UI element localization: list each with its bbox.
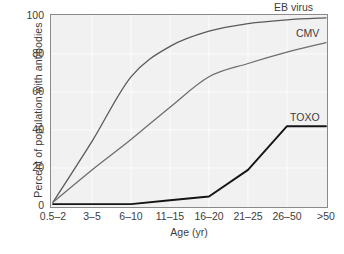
plot-area — [50, 14, 328, 208]
x-axis-tick-label: 6–10 — [119, 210, 142, 222]
series-line-cmv — [53, 43, 326, 203]
y-axis-tick-label: 100 — [18, 9, 44, 21]
x-axis-tick-label: 0.5–2 — [40, 210, 66, 222]
x-axis-tick-label: 16–20 — [194, 210, 223, 222]
y-axis-tick-label: 40 — [18, 123, 44, 135]
plot-canvas — [51, 15, 327, 207]
y-axis-tick-label: 80 — [18, 47, 44, 59]
x-axis-tick-labels: 0.5–23–56–1011–1516–2021–2526–50>50 — [50, 210, 328, 226]
y-axis-tick-label: 20 — [18, 161, 44, 173]
x-axis-tick-label: 3–5 — [83, 210, 101, 222]
chart-figure: Percent of population with antibodies 02… — [0, 0, 344, 254]
x-axis-tick-label: 21–25 — [233, 210, 262, 222]
x-axis-tick-label: 11–15 — [156, 210, 184, 222]
series-label-cmv: CMV — [296, 27, 319, 39]
y-axis-tick-label: 60 — [18, 85, 44, 97]
series-label-eb-virus: EB virus — [274, 1, 313, 13]
series-line-eb-virus — [53, 18, 326, 202]
x-axis-tick-label: >50 — [317, 210, 335, 222]
x-axis-tick-label: 26–50 — [272, 210, 301, 222]
series-label-toxo: TOXO — [290, 111, 320, 123]
x-axis-title: Age (yr) — [50, 226, 328, 238]
